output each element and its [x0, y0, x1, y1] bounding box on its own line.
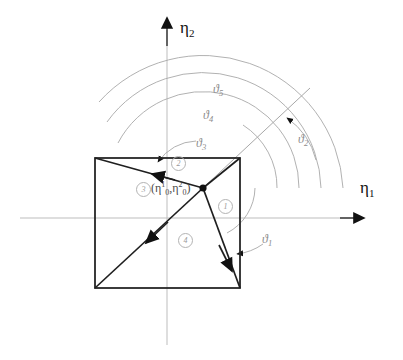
axis-label-eta-2: η2	[180, 18, 194, 39]
source-point-marker	[199, 184, 206, 191]
region-1-badge: 1	[218, 199, 233, 214]
region-2-badge: 2	[171, 156, 186, 171]
axis-arrowheads	[167, 24, 358, 218]
arc-theta-3	[118, 92, 299, 188]
diagram-vector-layer	[0, 0, 403, 360]
angle-theta-2-label: ϑ2	[298, 132, 308, 148]
angle-theta-4-label: ϑ4	[203, 108, 213, 124]
angle-theta-1-label: ϑ1	[262, 232, 272, 248]
axis-label-eta-1: η1	[360, 178, 374, 199]
region-4-badge: 4	[178, 233, 193, 248]
source-point-label: (η10,η20)	[151, 180, 191, 197]
ray-theta-2-direction	[203, 88, 310, 188]
region-3-badge: 3	[136, 182, 151, 197]
angle-theta-5-label: ϑ5	[213, 82, 223, 98]
arc-theta-5	[99, 55, 343, 188]
diagram-canvas: η2 η1 ϑ1 ϑ2 ϑ3 ϑ4 ϑ5 (η10,η20) 1 2 3 4	[0, 0, 403, 360]
angle-theta-3-label: ϑ3	[196, 136, 206, 152]
ray-to-top-right	[203, 158, 240, 188]
